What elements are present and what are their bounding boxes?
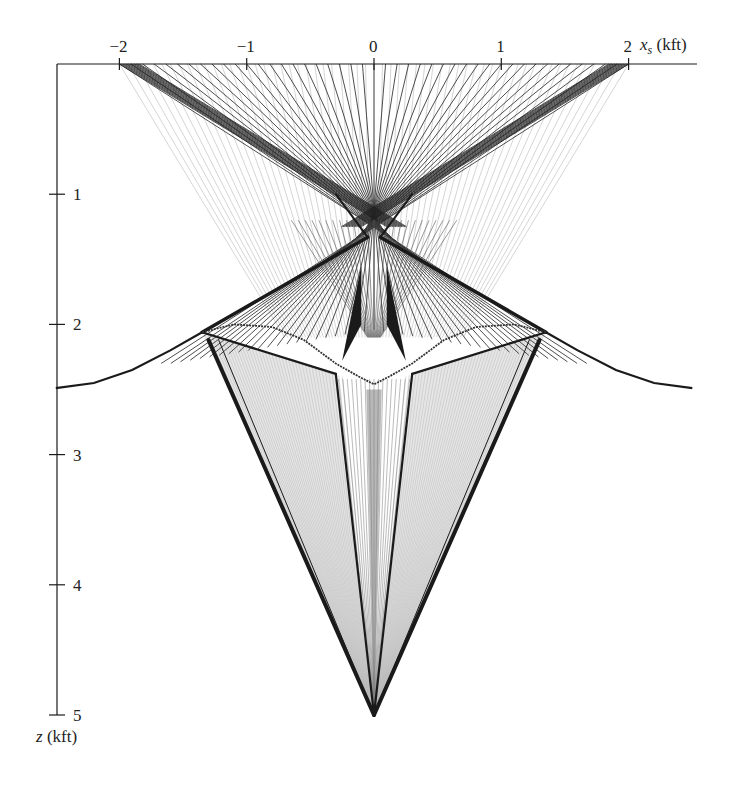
ray-diagram — [0, 0, 733, 786]
x-tick-label: 2 — [624, 38, 633, 55]
x-axis-title: xs (kft) — [640, 36, 687, 56]
z-tick-label: 3 — [73, 447, 82, 464]
z-tick-label: 2 — [73, 316, 82, 333]
x-tick-label: 0 — [369, 38, 378, 55]
z-axis-var: z — [36, 727, 43, 746]
x-axis-var: x — [640, 35, 648, 54]
dark-rays — [119, 64, 628, 363]
z-tick-label: 5 — [73, 707, 82, 724]
z-tick-label: 1 — [73, 186, 82, 203]
z-axis-title: z (kft) — [36, 728, 77, 745]
x-tick-label: −1 — [237, 38, 255, 55]
x-tick-label: −2 — [109, 38, 127, 55]
x-tick-label: 1 — [496, 38, 505, 55]
x-axis-sub: s — [648, 43, 653, 57]
z-axis-unit: (kft) — [47, 727, 77, 746]
z-tick-label: 4 — [73, 577, 82, 594]
x-axis-unit: (kft) — [656, 35, 686, 54]
